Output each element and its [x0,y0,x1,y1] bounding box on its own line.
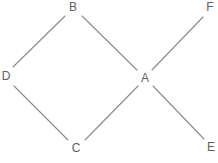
graph-edge-b-d [13,16,65,67]
graph-edge-d-c [14,86,68,140]
graph-node-e: E [207,141,215,153]
graph-edge-a-e [153,86,204,139]
graph-edge-layer [0,0,218,163]
graph-diagram: A B C D E F [0,0,218,163]
graph-node-d: D [2,70,11,82]
graph-node-c: C [72,142,81,154]
graph-edge-a-f [152,17,203,70]
graph-node-b: B [69,1,77,13]
graph-edge-c-a [85,86,138,140]
graph-node-a: A [141,72,149,84]
graph-edge-b-a [82,16,137,70]
graph-node-f: F [206,1,213,13]
